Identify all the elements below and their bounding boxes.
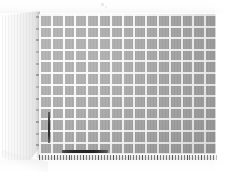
right-edge-fade bbox=[215, 0, 238, 176]
vertical-scale-bar bbox=[48, 112, 50, 143]
tile-grid-shading bbox=[39, 14, 216, 154]
side-wall bbox=[0, 11, 40, 169]
scene-viewport: Tiled wall interior perspective Low-reso… bbox=[0, 0, 238, 176]
ceiling-speck bbox=[101, 3, 104, 6]
ceiling-speck-secondary bbox=[105, 6, 107, 8]
horizontal-scale-bar bbox=[62, 150, 108, 153]
tile-grid bbox=[39, 14, 216, 154]
tile-grid-vignette bbox=[39, 14, 216, 154]
side-wall-texture bbox=[0, 11, 40, 169]
